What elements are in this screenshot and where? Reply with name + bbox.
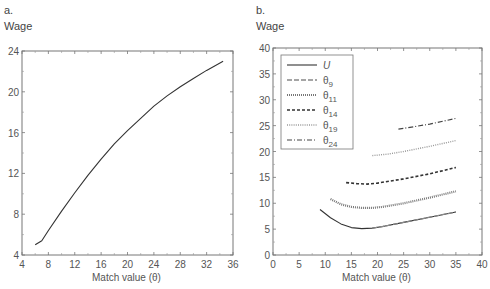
- x-tick-label: 35: [450, 259, 462, 270]
- series-line: [346, 168, 456, 185]
- y-tick-label: 24: [8, 46, 20, 57]
- x-tick-label: 25: [398, 259, 410, 270]
- y-tick-label: 15: [259, 172, 271, 183]
- x-tick-label: 16: [96, 259, 108, 270]
- panel-b-plot: 05101520253035400510152025303540Uθ9θ11θ1…: [259, 43, 488, 270]
- y-tick-label: 16: [8, 128, 20, 139]
- legend-label: U: [323, 60, 331, 71]
- y-tick-label: 25: [259, 121, 271, 132]
- y-tick-label: 10: [259, 198, 271, 209]
- series-line: [398, 118, 456, 129]
- x-tick-label: 30: [424, 259, 436, 270]
- x-tick-label: 24: [148, 259, 160, 270]
- x-tick-label: 32: [201, 259, 213, 270]
- series-line: [35, 61, 223, 245]
- y-tick-label: 20: [8, 87, 20, 98]
- x-tick-label: 0: [270, 259, 276, 270]
- y-tick-label: 0: [264, 250, 270, 261]
- x-tick-label: 4: [19, 259, 25, 270]
- y-tick-label: 20: [259, 147, 271, 158]
- x-tick-label: 20: [122, 259, 134, 270]
- y-tick-label: 35: [259, 69, 271, 80]
- x-tick-label: 28: [175, 259, 187, 270]
- y-tick-label: 30: [259, 95, 271, 106]
- x-tick-label: 40: [476, 259, 488, 270]
- x-tick-label: 8: [46, 259, 52, 270]
- y-tick-label: 4: [13, 250, 19, 261]
- charts-canvas: 48121620242832364812162024 0510152025303…: [0, 0, 490, 289]
- legend-box: [281, 55, 353, 149]
- x-tick-label: 10: [320, 259, 332, 270]
- x-tick-label: 5: [296, 259, 302, 270]
- x-tick-label: 12: [69, 259, 81, 270]
- y-tick-label: 5: [264, 224, 270, 235]
- y-tick-label: 40: [259, 43, 271, 54]
- y-tick-label: 8: [13, 209, 19, 220]
- panel-a-plot: 48121620242832364812162024: [8, 46, 239, 270]
- plot-frame: [22, 51, 233, 255]
- series-line: [331, 191, 456, 208]
- y-tick-label: 12: [8, 168, 20, 179]
- x-tick-label: 36: [227, 259, 239, 270]
- x-tick-label: 15: [346, 259, 358, 270]
- series-line: [372, 141, 456, 156]
- x-tick-label: 20: [372, 259, 384, 270]
